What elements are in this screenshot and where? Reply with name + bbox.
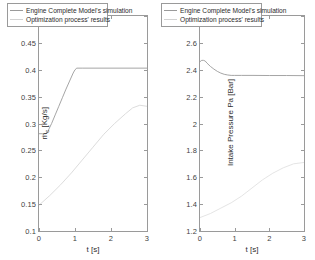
y-tick-mark [200,231,203,232]
x-tick-mark [147,228,148,231]
y-tick-mark [200,70,203,71]
legend-item-optimization: Optimization process' results [164,15,258,24]
y-tick-mark [144,150,147,151]
legend-label-optimization: Optimization process' results [180,15,264,24]
legend-line-swatch-optimization [164,19,177,20]
x-tick-mark [39,228,40,231]
legend-item-optimization: Optimization process' results [10,15,104,24]
x-tick-label: 0 [198,234,202,243]
legend-label-simulation: Engine Complete Model's simulation [26,6,132,15]
y-tick-mark [144,124,147,125]
y-tick-mark [301,43,304,44]
y-tick-mark [301,70,304,71]
y-tick-label: 1.4 [186,200,197,209]
y-tick-mark [301,231,304,232]
y-tick-label: 1.2 [186,227,197,236]
x-tick-label: 0 [37,234,41,243]
x-tick-label: 2 [267,234,271,243]
y-tick-mark [39,43,42,44]
y-tick-mark [200,177,203,178]
axes-intake-pressure: 1.21.41.61.822.22.42.62.80123 Intake Pre… [199,15,305,232]
plot-lines-mass-flow [39,16,147,231]
y-tick-mark [39,177,42,178]
series-line [200,162,304,217]
x-tick-mark [75,228,76,231]
y-tick-label: 1.8 [186,146,197,155]
y-tick-label: 1.6 [186,173,197,182]
x-tick-mark [111,16,112,19]
y-tick-label: 2.2 [186,92,197,101]
y-tick-mark [301,124,304,125]
legend-intake-pressure: Engine Complete Model's simulation Optim… [161,3,262,27]
y-tick-mark [39,70,42,71]
y-tick-mark [144,177,147,178]
y-tick-label: 2.4 [186,65,197,74]
y-tick-label: 0.25 [21,146,36,155]
legend-line-swatch-optimization [10,19,23,20]
y-tick-mark [301,150,304,151]
legend-item-simulation: Engine Complete Model's simulation [10,6,104,15]
y-tick-label: 0.35 [21,92,36,101]
x-tick-label: 3 [145,234,149,243]
plot-panel-intake-pressure: 1.21.41.61.822.22.42.62.80123 Intake Pre… [157,0,314,260]
y-tick-mark [200,43,203,44]
y-tick-mark [200,97,203,98]
x-tick-label: 3 [302,234,306,243]
y-axis-label-intake-pressure: Intake Pressure Pa [Bar] [226,67,235,177]
x-axis-label-right: t [s] [200,245,304,254]
y-tick-mark [144,97,147,98]
plot-panel-mass-flow: 0.10.150.20.250.30.350.40.450.50123 ṁc … [0,0,157,260]
y-tick-label: 0.1 [25,227,36,236]
x-tick-mark [304,228,305,231]
y-tick-mark [144,204,147,205]
plot-lines-intake-pressure [200,16,304,231]
x-tick-mark [111,228,112,231]
y-tick-label: 0.45 [21,38,36,47]
x-tick-mark [304,16,305,19]
y-tick-label: 2.6 [186,38,197,47]
y-tick-label: 0.3 [25,119,36,128]
y-tick-mark [200,204,203,205]
y-tick-mark [301,97,304,98]
y-tick-mark [144,70,147,71]
y-tick-label: 0.2 [25,173,36,182]
x-tick-label: 1 [233,234,237,243]
x-axis-label-left: t [s] [39,245,147,254]
y-tick-mark [39,204,42,205]
legend-line-swatch-simulation [164,10,177,11]
x-tick-label: 1 [73,234,77,243]
y-axis-label-mass-flow: ṁc [Kg/s] [40,93,51,153]
x-tick-mark [269,16,270,19]
y-tick-mark [39,231,42,232]
y-tick-mark [301,177,304,178]
series-line [39,68,147,134]
y-tick-mark [200,150,203,151]
y-tick-mark [200,124,203,125]
legend-label-optimization: Optimization process' results [26,15,110,24]
x-tick-mark [200,228,201,231]
x-tick-mark [147,16,148,19]
figure-canvas: 0.10.150.20.250.30.350.40.450.50123 ṁc … [0,0,315,260]
y-axis-label-text: ṁc [Kg/s] [40,107,49,139]
legend-label-simulation: Engine Complete Model's simulation [180,6,286,15]
legend-line-swatch-simulation [10,10,23,11]
series-line [39,105,147,205]
x-tick-mark [269,228,270,231]
y-tick-mark [144,43,147,44]
x-tick-label: 2 [109,234,113,243]
series-line [200,60,304,75]
y-tick-label: 0.15 [21,200,36,209]
axes-mass-flow: 0.10.150.20.250.30.350.40.450.50123 ṁc … [38,15,148,232]
y-tick-mark [144,231,147,232]
y-tick-label: 0.4 [25,65,36,74]
legend-mass-flow: Engine Complete Model's simulation Optim… [7,3,108,27]
y-tick-mark [301,204,304,205]
legend-item-simulation: Engine Complete Model's simulation [164,6,258,15]
y-tick-label: 2 [193,119,197,128]
x-tick-mark [235,228,236,231]
